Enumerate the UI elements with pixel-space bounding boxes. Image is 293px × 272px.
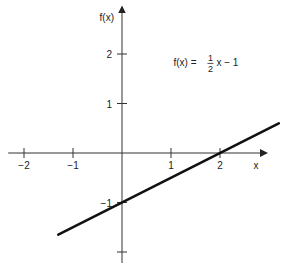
annotation-suffix: x − 1	[216, 57, 238, 68]
function-annotation: f(x) = 1 2 x − 1	[173, 53, 238, 74]
x-axis-label: x	[254, 160, 259, 171]
y-ticks: 21−1	[101, 49, 127, 252]
function-graph: −2−112 21−1 x f(x) f(x) = 1 2 x − 1	[0, 0, 293, 272]
annotation-fraction-numerator: 1	[208, 53, 213, 63]
y-tick-label: 1	[106, 99, 112, 110]
x-tick-label: 2	[217, 160, 223, 171]
x-tick-label: −1	[67, 160, 79, 171]
y-tick-label: 2	[106, 49, 112, 60]
y-axis-label: f(x)	[100, 12, 114, 23]
x-tick-label: 1	[168, 160, 174, 171]
series-group	[58, 123, 278, 234]
annotation-fraction-denominator: 2	[208, 64, 213, 74]
series-line	[58, 123, 278, 234]
x-tick-label: −2	[18, 160, 30, 171]
annotation-prefix: f(x) =	[173, 57, 196, 68]
